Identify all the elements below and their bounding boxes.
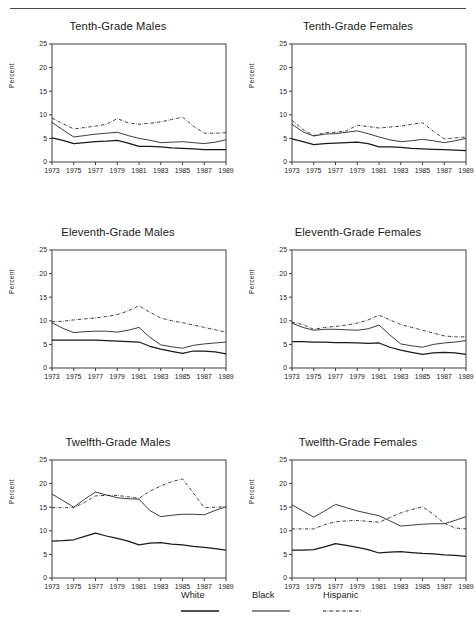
legend-label: Hispanic (323, 590, 358, 600)
x-tick-label: 1977 (328, 167, 343, 174)
y-tick-label: 5 (283, 551, 287, 558)
chart-title: Eleventh-Grade Females (240, 226, 476, 238)
chart-svg: 0510152025197319751977197919811983198519… (0, 452, 236, 602)
y-tick-label: 0 (283, 574, 287, 581)
series-line-hispanic (292, 507, 466, 529)
legend-item-black: Black (252, 590, 274, 600)
chart-panel: Tenth-Grade MalesPercent0510152025197319… (0, 14, 236, 220)
chart-panel: Tenth-Grade FemalesPercent05101520251973… (240, 14, 476, 220)
x-tick-label: 1987 (437, 583, 452, 590)
y-tick-label: 25 (39, 456, 47, 463)
series-line-hispanic (52, 117, 226, 133)
y-tick-label: 15 (279, 504, 287, 511)
x-tick-label: 1985 (415, 167, 430, 174)
x-tick-label: 1987 (197, 167, 212, 174)
x-tick-label: 1983 (153, 373, 168, 380)
chart-title: Twelfth-Grade Males (0, 436, 236, 448)
y-tick-label: 10 (279, 317, 287, 324)
x-tick-label: 1977 (328, 373, 343, 380)
x-tick-label: 1981 (371, 373, 386, 380)
y-tick-label: 15 (279, 294, 287, 301)
y-tick-label: 5 (43, 551, 47, 558)
chart-svg: 0510152025197319751977197919811983198519… (240, 452, 476, 602)
x-tick-label: 1979 (350, 167, 365, 174)
y-axis-label: Percent (248, 63, 255, 88)
y-tick-label: 10 (39, 111, 47, 118)
y-tick-label: 0 (43, 364, 47, 371)
y-axis-label: Percent (8, 479, 15, 504)
x-tick-label: 1987 (197, 373, 212, 380)
plot-frame (292, 250, 466, 368)
x-tick-label: 1983 (393, 167, 408, 174)
y-tick-label: 20 (39, 480, 47, 487)
x-tick-label: 1979 (350, 373, 365, 380)
x-tick-label: 1981 (131, 167, 146, 174)
chart-title: Twelfth-Grade Females (240, 436, 476, 448)
series-line-black (292, 504, 466, 526)
legend-line-sample (323, 607, 365, 617)
x-tick-label: 1981 (371, 583, 386, 590)
x-tick-label: 1989 (458, 167, 473, 174)
y-tick-label: 5 (283, 135, 287, 142)
chart-svg: 0510152025197319751977197919811983198519… (0, 36, 236, 186)
x-tick-label: 1985 (415, 373, 430, 380)
plot-frame (52, 44, 226, 162)
y-tick-label: 10 (279, 111, 287, 118)
x-tick-label: 1985 (175, 373, 190, 380)
x-tick-label: 1973 (284, 373, 299, 380)
x-tick-label: 1983 (393, 583, 408, 590)
x-tick-label: 1979 (110, 583, 125, 590)
x-tick-label: 1985 (415, 583, 430, 590)
x-tick-label: 1981 (371, 167, 386, 174)
legend-label: White (181, 590, 205, 600)
y-tick-label: 10 (39, 317, 47, 324)
y-tick-label: 5 (283, 341, 287, 348)
x-tick-label: 1981 (131, 373, 146, 380)
series-line-white (52, 138, 226, 150)
x-tick-label: 1975 (66, 167, 81, 174)
y-tick-label: 25 (39, 246, 47, 253)
y-tick-label: 20 (279, 480, 287, 487)
y-tick-label: 0 (43, 158, 47, 165)
plot-area: Percent051015202519731975197719791981198… (0, 452, 236, 602)
y-axis-label: Percent (8, 269, 15, 294)
top-divider (10, 8, 466, 9)
plot-area: Percent051015202519731975197719791981198… (0, 242, 236, 392)
x-tick-label: 1977 (88, 167, 103, 174)
series-line-white (52, 533, 226, 550)
y-tick-label: 20 (39, 270, 47, 277)
x-tick-label: 1989 (458, 373, 473, 380)
chart-svg: 0510152025197319751977197919811983198519… (240, 36, 476, 186)
legend-item-hispanic: Hispanic (323, 590, 358, 600)
y-tick-label: 25 (279, 456, 287, 463)
x-tick-label: 1973 (284, 167, 299, 174)
y-tick-label: 20 (39, 64, 47, 71)
x-tick-label: 1977 (328, 583, 343, 590)
series-line-black (52, 492, 226, 517)
series-line-white (292, 139, 466, 151)
y-tick-label: 25 (279, 40, 287, 47)
y-tick-label: 0 (283, 158, 287, 165)
y-tick-label: 10 (279, 527, 287, 534)
x-tick-label: 1983 (153, 583, 168, 590)
x-tick-label: 1979 (350, 583, 365, 590)
x-tick-label: 1973 (44, 167, 59, 174)
y-tick-label: 5 (43, 135, 47, 142)
plot-area: Percent051015202519731975197719791981198… (240, 452, 476, 602)
y-tick-label: 15 (39, 504, 47, 511)
series-line-hispanic (52, 479, 226, 508)
y-tick-label: 25 (39, 40, 47, 47)
plot-area: Percent051015202519731975197719791981198… (240, 242, 476, 392)
y-axis-label: Percent (8, 63, 15, 88)
legend-line-sample (181, 607, 223, 617)
y-tick-label: 10 (39, 527, 47, 534)
legend-item-white: White (181, 590, 205, 600)
legend-label: Black (252, 590, 274, 600)
series-line-black (292, 124, 466, 142)
x-tick-label: 1975 (66, 373, 81, 380)
chart-panel: Eleventh-Grade FemalesPercent05101520251… (240, 220, 476, 430)
chart-grid: Tenth-Grade MalesPercent0510152025197319… (0, 14, 476, 626)
y-tick-label: 15 (39, 88, 47, 95)
x-tick-label: 1975 (66, 583, 81, 590)
x-tick-label: 1989 (218, 583, 233, 590)
